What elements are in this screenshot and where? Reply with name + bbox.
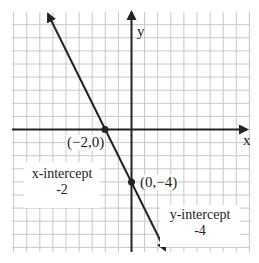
x-intercept-title: x-intercept <box>24 166 100 182</box>
x-intercept-point <box>102 126 109 133</box>
y-intercept-point <box>128 179 135 186</box>
x-intercept-value: -2 <box>24 182 100 198</box>
y-intercept-annotation: y-intercept -4 <box>160 205 240 247</box>
x-axis-label: x <box>243 133 251 148</box>
y-intercept-value: -4 <box>160 223 240 239</box>
x-intercept-annotation: x-intercept -2 <box>24 162 100 208</box>
y-intercept-point-label: (0,−4) <box>139 175 178 190</box>
x-intercept-point-label: (−2,0) <box>66 135 105 150</box>
y-axis-label: y <box>137 24 145 39</box>
y-intercept-title: y-intercept <box>160 207 240 223</box>
